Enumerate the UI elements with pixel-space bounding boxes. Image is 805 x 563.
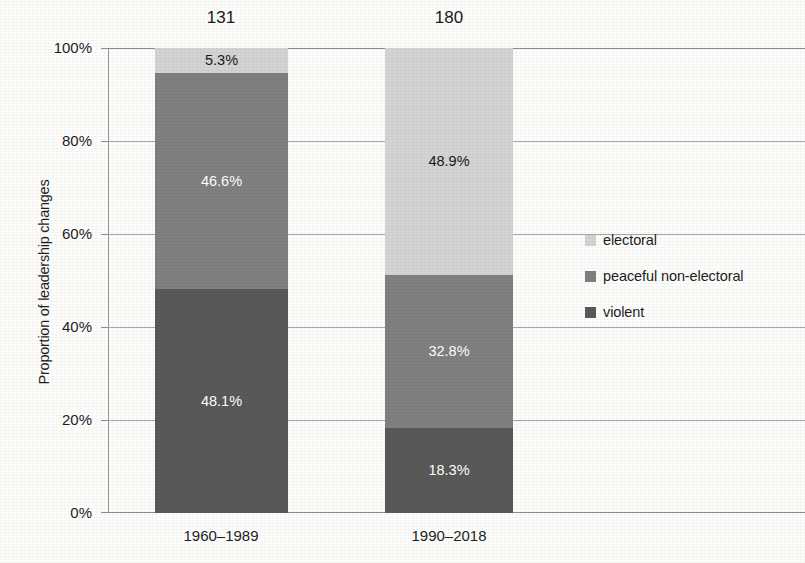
bar-segment-label: 48.9% [428, 154, 469, 169]
y-tick-label-100: 100% [12, 39, 92, 56]
legend-swatch-icon [585, 235, 596, 246]
bar-segment-label: 5.3% [205, 53, 238, 68]
bar-segment-label: 32.8% [428, 344, 469, 359]
x-axis-label-1960-1989: 1960–1989 [111, 527, 331, 544]
y-tick-mark-40 [101, 327, 108, 328]
y-tick-label-0: 0% [12, 504, 92, 521]
legend-label: electoral [603, 232, 657, 248]
y-tick-mark-20 [101, 420, 108, 421]
bar-1960-1989[interactable]: 48.1% 46.6% 5.3% [155, 48, 288, 513]
bar-total-1960-1989: 131 [111, 8, 331, 28]
legend-item-violent[interactable]: violent [585, 294, 800, 330]
legend-swatch-icon [585, 307, 596, 318]
y-tick-mark-0 [101, 512, 108, 513]
bar-segment-violent-1990-2018[interactable]: 18.3% [385, 428, 513, 513]
y-tick-mark-80 [101, 141, 108, 142]
legend-item-peaceful-non-electoral[interactable]: peaceful non-electoral [585, 258, 800, 294]
legend: electoral peaceful non-electoral violent [585, 222, 800, 330]
bar-segment-label: 48.1% [201, 394, 242, 409]
legend-label: peaceful non-electoral [603, 268, 743, 284]
legend-label: violent [603, 304, 644, 320]
bar-segment-label: 46.6% [201, 174, 242, 189]
legend-swatch-icon [585, 271, 596, 282]
stacked-bar-chart: Proportion of leadership changes 100% 80… [0, 0, 805, 563]
y-tick-label-20: 20% [12, 411, 92, 428]
bar-1990-2018[interactable]: 18.3% 32.8% 48.9% [385, 48, 513, 513]
bar-segment-electoral-1990-2018[interactable]: 48.9% [385, 48, 513, 275]
bar-segment-peaceful-non-electoral-1990-2018[interactable]: 32.8% [385, 275, 513, 428]
y-tick-mark-100 [101, 48, 108, 49]
bar-segment-peaceful-non-electoral-1960-1989[interactable]: 46.6% [155, 73, 288, 290]
y-tick-label-60: 60% [12, 225, 92, 242]
bar-segment-violent-1960-1989[interactable]: 48.1% [155, 289, 288, 513]
y-axis-line [108, 48, 109, 513]
bar-segment-electoral-1960-1989[interactable]: 5.3% [155, 48, 288, 73]
y-tick-label-40: 40% [12, 318, 92, 335]
bar-total-1990-2018: 180 [339, 8, 559, 28]
legend-item-electoral[interactable]: electoral [585, 222, 800, 258]
x-axis-label-1990-2018: 1990–2018 [339, 527, 559, 544]
bar-segment-label: 18.3% [428, 463, 469, 478]
y-tick-label-80: 80% [12, 132, 92, 149]
y-tick-mark-60 [101, 234, 108, 235]
